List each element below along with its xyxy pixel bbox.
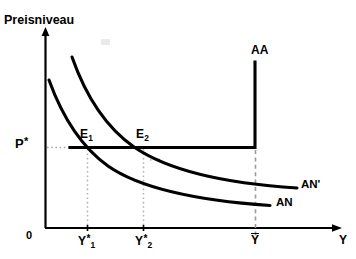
price-level-letter: P [15, 136, 24, 151]
economics-diagram: Preisniveau P* 0 E1 E2 Y*1 Y*2 Y AA AN' … [0, 0, 356, 259]
output-1-star: * [86, 233, 90, 244]
output-2-label: Y*2 [135, 234, 152, 249]
y-axis-arrowhead [42, 27, 50, 36]
output-1-subscript: 1 [91, 240, 96, 250]
equilibrium-1-letter: E [80, 127, 88, 141]
x-axis [45, 224, 342, 232]
aa-supply-curve [70, 62, 255, 148]
output-2-star: * [143, 233, 147, 244]
output-1-letter: Y [78, 234, 86, 248]
an-curve-label: AN [276, 197, 293, 209]
output-1-label: Y*1 [78, 234, 95, 249]
x-axis-arrowhead [332, 224, 342, 232]
potential-output-letter: Y [251, 234, 259, 246]
equilibrium-2-subscript: 2 [144, 133, 149, 143]
potential-output-label: Y [251, 234, 259, 246]
equilibrium-1-label: E1 [80, 128, 93, 142]
an-demand-curve [49, 80, 270, 206]
output-2-letter: Y [135, 234, 143, 248]
y-axis-title: Preisniveau [4, 14, 74, 27]
equilibrium-1-subscript: 1 [88, 133, 93, 143]
price-level-star: * [24, 135, 28, 147]
an-prime-demand-curve [72, 57, 297, 188]
diagram-canvas [0, 0, 356, 259]
scan-artifact [101, 39, 110, 45]
x-axis-label: Y [339, 234, 347, 246]
equilibrium-2-letter: E [136, 127, 144, 141]
y-axis [42, 27, 50, 228]
price-level-label: P* [15, 136, 28, 150]
an-prime-curve-label: AN' [301, 179, 320, 191]
equilibrium-2-label: E2 [136, 128, 149, 142]
aa-curve-label: AA [251, 44, 268, 56]
origin-label: 0 [26, 230, 32, 241]
output-2-subscript: 2 [148, 240, 153, 250]
